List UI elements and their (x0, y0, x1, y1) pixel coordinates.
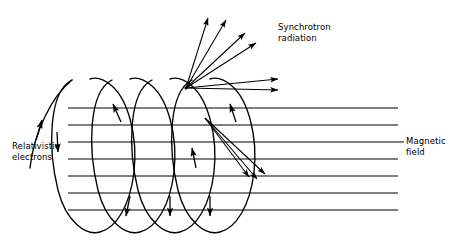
synchrotron-ray-fan-upper (186, 18, 278, 90)
helix-direction-arrow (230, 104, 236, 122)
helix-direction-arrow (113, 104, 121, 122)
diagram-canvas (0, 0, 456, 245)
radiation-ray (186, 43, 256, 88)
radiation-ray (205, 118, 249, 177)
magnetic-field-lines (68, 108, 398, 210)
label-synchrotron-radiation: Synchrotron radiation (278, 22, 331, 44)
synchrotron-radiation-diagram: Synchrotron radiation Relativistic elect… (0, 0, 456, 245)
helix-direction-arrow (36, 120, 42, 140)
radiation-ray (186, 88, 278, 90)
helix-direction-arrow (192, 148, 196, 168)
label-magnetic-field: Magnetic field (406, 136, 446, 158)
radiation-ray (186, 20, 226, 88)
helix-direction-arrows (36, 104, 236, 216)
label-relativistic-electrons: Relativistic electrons (12, 141, 59, 163)
radiation-ray (205, 118, 257, 179)
